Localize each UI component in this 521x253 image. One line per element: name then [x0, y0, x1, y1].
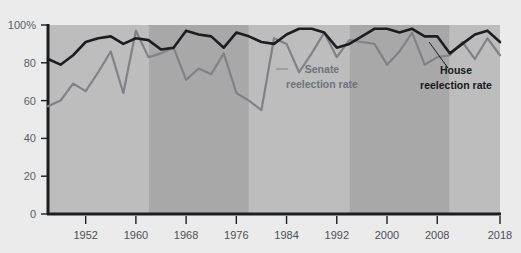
background-band	[48, 25, 148, 214]
senate-annotation-label-line1: Senate	[305, 63, 340, 75]
y-axis-tick-label: 0	[30, 208, 36, 220]
y-axis-tick-label: 60	[24, 95, 36, 107]
x-axis-tick-label: 1984	[274, 229, 298, 241]
x-axis-tick-label: 1976	[224, 229, 248, 241]
y-axis-tick-labels: 020406080100%	[8, 19, 36, 220]
x-axis-tick-label: 2018	[488, 229, 512, 241]
y-axis-tick-label: 40	[24, 132, 36, 144]
x-axis-tick-label: 2000	[375, 229, 399, 241]
x-axis-tick-label: 1952	[73, 229, 97, 241]
house-annotation-label-line1: House	[440, 64, 472, 76]
chart-container: 020406080100% 19521960196819761984199220…	[0, 0, 521, 253]
house-annotation-label-line2: reelection rate	[420, 79, 492, 91]
x-axis-tick-label: 1992	[325, 229, 349, 241]
y-axis-tick-label: 20	[24, 170, 36, 182]
x-axis-tick-labels: 195219601968197619841992200020082018	[73, 229, 512, 241]
x-axis-tick-label: 1960	[124, 229, 148, 241]
y-axis-tick-label: 80	[24, 57, 36, 69]
y-axis-tick-label: 100%	[8, 19, 36, 31]
x-axis-tick-label: 2008	[425, 229, 449, 241]
x-axis-ticks	[86, 216, 500, 224]
x-axis-tick-label: 1968	[174, 229, 198, 241]
background-band	[450, 25, 500, 214]
plot-background-bands	[48, 25, 500, 214]
senate-annotation-label-line2: reelection rate	[286, 78, 358, 90]
reelection-rate-line-chart: 020406080100% 19521960196819761984199220…	[0, 0, 521, 253]
background-band	[349, 25, 449, 214]
